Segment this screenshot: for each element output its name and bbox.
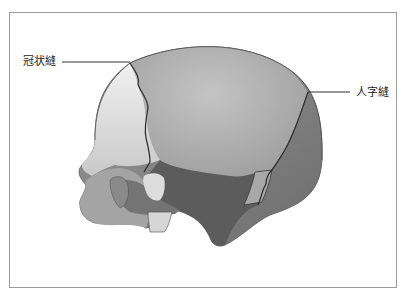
skull-illustration xyxy=(0,0,407,303)
coronal-suture-label: 冠状縫 xyxy=(23,56,56,68)
lambdoid-suture-label: 人字縫 xyxy=(356,87,389,99)
mandible-light-patch xyxy=(148,212,172,232)
